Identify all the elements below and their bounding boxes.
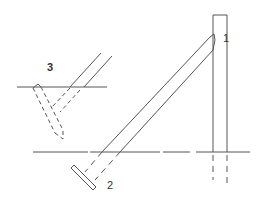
projection-dashes — [85, 152, 120, 180]
dashed-pointer — [33, 84, 80, 139]
main-beam — [102, 34, 215, 152]
label-two: 2 — [107, 180, 113, 191]
diagram-canvas — [0, 0, 261, 203]
upper-beam — [17, 53, 112, 87]
label-three: 3 — [47, 62, 53, 73]
label-one: 1 — [223, 33, 229, 44]
plate — [71, 165, 96, 190]
